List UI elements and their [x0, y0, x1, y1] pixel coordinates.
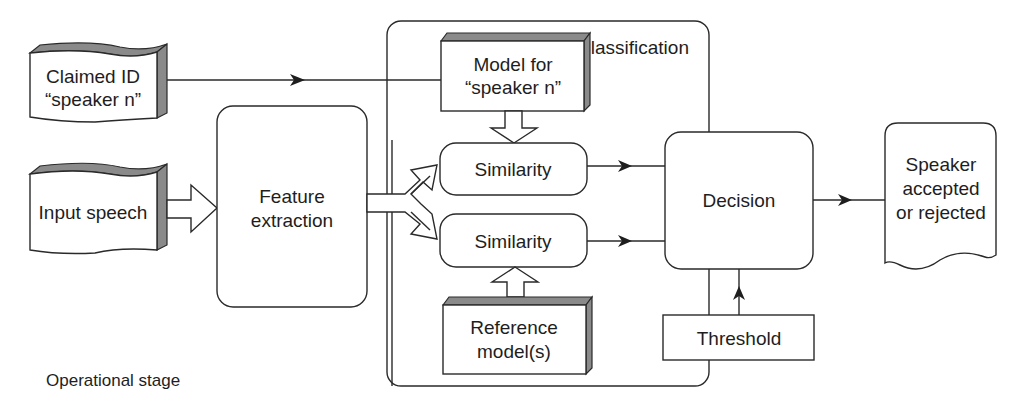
claimed-id-node: Claimed ID “speaker n” [30, 43, 167, 122]
feature-extraction-line1: Feature [259, 186, 324, 207]
similarity-top-label: Similarity [474, 159, 552, 180]
hollow-arrow-down-icon [491, 111, 537, 143]
similarity-bottom-label: Similarity [474, 231, 552, 252]
feature-extraction-line2: extraction [251, 210, 333, 231]
input-speech-node: Input speech [30, 163, 167, 253]
decision-label: Decision [703, 190, 776, 211]
fork-hollow-arrow-icon [367, 140, 437, 386]
hollow-arrow-up-icon [492, 267, 538, 297]
model-line1: Model for [473, 54, 553, 75]
classification-label: Classification [577, 37, 689, 58]
speaker-verification-diagram: Classification Claimed ID “speaker n” In… [0, 0, 1021, 410]
claimed-id-line1: Claimed ID [46, 66, 140, 87]
model-for-speaker-node: Model for “speaker n” [441, 33, 590, 111]
reference-line2: model(s) [477, 341, 551, 362]
input-speech-label: Input speech [39, 202, 148, 223]
hollow-arrow-icon [167, 185, 217, 232]
claimed-id-line2: “speaker n” [45, 89, 141, 110]
output-line1: Speaker [906, 154, 977, 175]
output-node: Speaker accepted or rejected [885, 123, 996, 269]
output-line2: accepted [902, 178, 979, 199]
operational-stage-caption: Operational stage [46, 371, 180, 390]
output-line3: or rejected [896, 202, 986, 223]
reference-models-node: Reference model(s) [443, 297, 592, 374]
reference-line1: Reference [470, 317, 558, 338]
model-line2: “speaker n” [465, 77, 561, 98]
threshold-label: Threshold [697, 328, 782, 349]
